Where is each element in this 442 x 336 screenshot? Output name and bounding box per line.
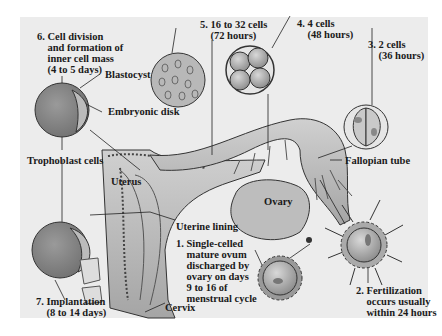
stage-7-label: 7. Implantation (8 to 14 days) xyxy=(36,296,106,318)
ovary xyxy=(231,180,312,243)
stage-1-ovum xyxy=(258,256,302,300)
stage-6-blastocyst xyxy=(35,83,89,137)
stage-7-implantation xyxy=(32,222,102,304)
trophoblast-cells-label: Trophoblast cells xyxy=(27,155,103,166)
stage-2-label: 2. Fertilization occurs usually within 2… xyxy=(356,285,437,318)
ovary-label: Ovary xyxy=(264,196,293,207)
stage-5-label: 5. 16 to 32 cells (72 hours) xyxy=(200,19,267,41)
stage-3-two-cells xyxy=(344,105,388,149)
stage-3-label: 3. 2 cells (36 hours) xyxy=(368,39,424,61)
stage-4-label: 4. 4 cells (48 hours) xyxy=(297,18,353,40)
fallopian-tube-label: Fallopian tube xyxy=(345,155,410,166)
uterine-lining-label: Uterine lining xyxy=(176,221,238,232)
blastocyst-label: Blastocyst xyxy=(105,69,151,80)
stage-5-morula xyxy=(151,53,205,107)
stage-4-four-cells xyxy=(226,46,274,94)
stage-1-label: 1. Single-celled mature ovum discharged … xyxy=(176,238,257,304)
embryonic-disk-label: Embryonic disk xyxy=(108,106,179,117)
uterus-label: Uterus xyxy=(111,176,141,187)
